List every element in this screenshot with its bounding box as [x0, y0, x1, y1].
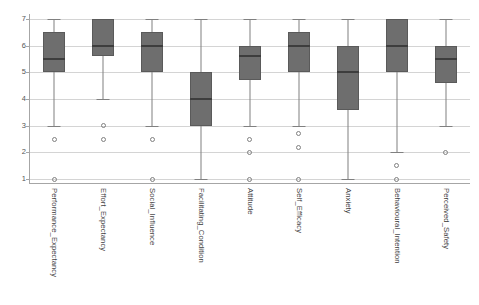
lower-whisker-cap: [439, 126, 452, 127]
box-plot-group[interactable]: [128, 14, 177, 184]
outlier-point: [150, 177, 155, 182]
y-tick-mark-7: [26, 19, 29, 20]
outlier-point: [247, 150, 252, 155]
box-plot-group[interactable]: [372, 14, 421, 184]
iqr-box[interactable]: [337, 46, 359, 110]
upper-whisker-cap: [292, 19, 305, 20]
x-axis-label-behavioural-intention: Behavioural_Intention: [393, 188, 401, 264]
x-label-slot: Attitude: [226, 184, 275, 302]
outlier-point: [247, 177, 252, 182]
x-label-slot: Social_Influence: [128, 184, 177, 302]
upper-whisker: [347, 19, 348, 46]
upper-whisker: [152, 19, 153, 32]
outlier-point: [296, 177, 301, 182]
lower-whisker: [396, 72, 397, 152]
iqr-box[interactable]: [141, 32, 163, 72]
median-line: [337, 71, 359, 73]
box-plot-group[interactable]: [323, 14, 372, 184]
plot-area: [30, 14, 470, 184]
lower-whisker-cap: [243, 126, 256, 127]
outlier-point: [52, 177, 57, 182]
upper-whisker: [445, 19, 446, 46]
upper-whisker-cap: [243, 19, 256, 20]
box-plot-group[interactable]: [79, 14, 128, 184]
lower-whisker: [445, 83, 446, 126]
lower-whisker: [54, 72, 55, 125]
lower-whisker-cap: [146, 126, 159, 127]
lower-whisker-cap: [48, 126, 61, 127]
x-axis-label-self-efficacy: Self_Efficacy: [295, 188, 303, 233]
box-plot-chart: 1234567 Performance_ExpectancyEffort_Exp…: [0, 0, 479, 305]
upper-whisker-cap: [48, 19, 61, 20]
outlier-point: [394, 177, 399, 182]
lower-whisker-cap: [390, 152, 403, 153]
x-axis-label-social-influence: Social_Influence: [148, 188, 156, 245]
y-tick-label-3: 3: [4, 122, 26, 130]
x-axis-category-labels: Performance_ExpectancyEffort_ExpectancyS…: [30, 184, 470, 304]
outlier-point: [296, 145, 301, 150]
upper-whisker-cap: [341, 19, 354, 20]
box-plot-group[interactable]: [30, 14, 79, 184]
outlier-point: [101, 137, 106, 142]
y-tick-mark-1: [26, 179, 29, 180]
x-axis-label-anxiety: Anxiety: [344, 188, 352, 214]
lower-whisker: [103, 56, 104, 99]
outlier-point: [296, 131, 301, 136]
box-plot-group[interactable]: [421, 14, 470, 184]
x-label-slot: Effort_Expectancy: [79, 184, 128, 302]
y-tick-label-1: 1: [4, 175, 26, 183]
x-axis-label-effort-expectancy: Effort_Expectancy: [100, 188, 108, 251]
x-axis-label-facilitating-condition: Facilitating_Condition: [197, 188, 205, 263]
median-line: [386, 45, 408, 47]
box-plot-group[interactable]: [226, 14, 275, 184]
median-line: [288, 45, 310, 47]
outlier-point: [443, 150, 448, 155]
outlier-point: [101, 123, 106, 128]
y-tick-label-6: 6: [4, 42, 26, 50]
upper-whisker: [249, 19, 250, 46]
upper-whisker: [54, 19, 55, 32]
x-label-slot: Behavioural_Intention: [372, 184, 421, 302]
y-tick-label-7: 7: [4, 15, 26, 23]
upper-whisker: [298, 19, 299, 32]
lower-whisker: [298, 72, 299, 125]
lower-whisker-cap: [195, 179, 208, 180]
lower-whisker-cap: [97, 99, 110, 100]
median-line: [43, 58, 65, 60]
lower-whisker: [152, 72, 153, 125]
y-tick-mark-4: [26, 99, 29, 100]
iqr-box[interactable]: [92, 19, 114, 56]
iqr-box[interactable]: [288, 32, 310, 72]
outlier-point: [150, 137, 155, 142]
box-plot-group[interactable]: [274, 14, 323, 184]
iqr-box[interactable]: [239, 46, 261, 81]
upper-whisker-cap: [146, 19, 159, 20]
box-plot-group[interactable]: [177, 14, 226, 184]
outlier-point: [394, 163, 399, 168]
x-label-slot: Perceived_Safety: [421, 184, 470, 302]
y-tick-mark-5: [26, 72, 29, 73]
y-tick-mark-3: [26, 126, 29, 127]
x-axis-label-performance-expectancy: Performance_Expectancy: [51, 188, 59, 277]
x-label-slot: Self_Efficacy: [274, 184, 323, 302]
upper-whisker-cap: [195, 19, 208, 20]
x-axis-label-perceived-safety: Perceived_Safety: [442, 188, 450, 249]
y-tick-mark-2: [26, 152, 29, 153]
iqr-box[interactable]: [43, 32, 65, 72]
median-line: [190, 98, 212, 100]
y-tick-label-2: 2: [4, 149, 26, 157]
upper-whisker: [201, 19, 202, 72]
lower-whisker-cap: [292, 126, 305, 127]
iqr-box[interactable]: [435, 46, 457, 83]
lower-whisker: [201, 126, 202, 179]
upper-whisker-cap: [439, 19, 452, 20]
y-tick-mark-6: [26, 46, 29, 47]
outlier-point: [247, 137, 252, 142]
outlier-point: [52, 137, 57, 142]
y-tick-label-4: 4: [4, 95, 26, 103]
median-line: [141, 45, 163, 47]
lower-whisker: [347, 110, 348, 179]
y-tick-label-5: 5: [4, 69, 26, 77]
y-axis-tick-labels: 1234567: [0, 14, 26, 184]
median-line: [435, 58, 457, 60]
